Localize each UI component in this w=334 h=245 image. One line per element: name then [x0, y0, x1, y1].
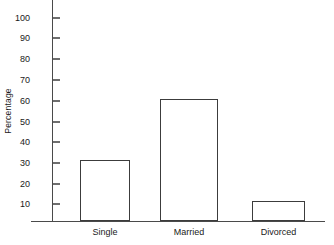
- y-tick-label: 100: [4, 12, 30, 25]
- bar-divorced[interactable]: [252, 201, 305, 221]
- y-tick-mark: [53, 121, 60, 122]
- y-tick-label: 70: [4, 74, 30, 87]
- y-tick-mark: [53, 141, 60, 142]
- y-tick-label: 80: [4, 53, 30, 66]
- bar-chart: Percentage 100908070605040302010 SingleM…: [0, 0, 334, 245]
- y-tick-mark: [53, 162, 60, 163]
- y-tick-mark: [53, 17, 60, 18]
- y-tick-mark: [53, 58, 60, 59]
- y-tick-label: 90: [4, 32, 30, 45]
- y-tick-label: 50: [4, 116, 30, 129]
- y-tick-mark: [53, 37, 60, 38]
- plot-area: 100908070605040302010 SingleMarriedDivor…: [0, 0, 334, 245]
- bar-single[interactable]: [80, 160, 130, 221]
- y-tick-label: 30: [4, 157, 30, 170]
- y-tick-label: 40: [4, 136, 30, 149]
- x-axis-line: [31, 221, 325, 222]
- y-tick-mark: [53, 183, 60, 184]
- x-axis-label-single: Single: [80, 227, 130, 237]
- bar-married[interactable]: [160, 99, 218, 221]
- y-tick-mark: [53, 203, 60, 204]
- x-axis-label-married: Married: [160, 227, 218, 237]
- y-tick-label: 60: [4, 95, 30, 108]
- y-axis-line: [52, 0, 53, 222]
- x-axis-label-divorced: Divorced: [252, 227, 305, 237]
- y-tick-mark: [53, 79, 60, 80]
- y-tick-mark: [53, 100, 60, 101]
- y-tick-label: 20: [4, 178, 30, 191]
- y-tick-label: 10: [4, 198, 30, 211]
